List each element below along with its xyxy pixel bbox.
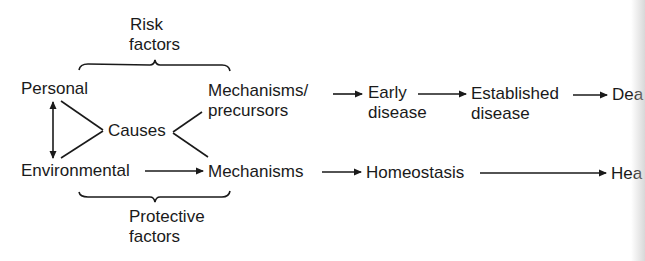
page-edge-shadow <box>631 0 645 261</box>
diagram-connectors <box>0 0 645 261</box>
homeostasis-node: Homeostasis <box>366 164 464 182</box>
causes-node: Causes <box>108 122 166 140</box>
established-disease-node-line2: disease <box>471 105 530 123</box>
risk-factors-label-line2: factors <box>129 36 180 54</box>
risk-factors-label-line1: Risk <box>130 16 163 34</box>
mechanisms-node: Mechanisms <box>208 163 303 181</box>
protective-factors-brace <box>79 191 230 202</box>
early-disease-node-line2: disease <box>368 104 427 122</box>
mechanisms-precursors-node-line2: precursors <box>208 102 288 120</box>
established-disease-node-line1: Established <box>471 85 559 103</box>
causes-mechanisms-line <box>173 133 208 157</box>
protective-factors-label-line1: Protective <box>129 208 205 226</box>
environmental-causes-line <box>61 131 103 158</box>
early-disease-node-line1: Early <box>368 84 407 102</box>
mechanisms-precursors-node-line1: Mechanisms/ <box>208 82 308 100</box>
environmental-node: Environmental <box>21 162 130 180</box>
risk-factors-brace <box>79 60 230 71</box>
protective-factors-label-line2: factors <box>129 228 180 246</box>
personal-causes-line <box>61 101 103 130</box>
causes-precursors-line <box>173 112 202 132</box>
causal-pathway-diagram: Risk factors Personal Environmental Caus… <box>0 0 645 261</box>
personal-node: Personal <box>21 80 88 98</box>
